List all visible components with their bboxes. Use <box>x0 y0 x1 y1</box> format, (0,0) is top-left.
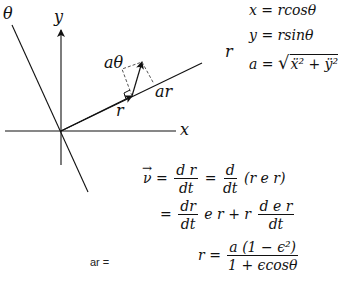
ar-label: ar = <box>90 256 109 268</box>
theta-axis-label: θ <box>3 6 13 22</box>
theta-line <box>12 25 88 192</box>
y-equation: y = rsinθ <box>249 28 313 42</box>
r-vector-label: r <box>116 103 124 119</box>
orbit-equation: r = a (1 − ϵ²)1 + ϵcosθ <box>198 240 300 272</box>
r-line-label: r <box>225 44 233 60</box>
velocity-equation: ν = d rdt = ddt (r e r) <box>143 163 285 195</box>
a-theta-label: aθ <box>104 55 123 71</box>
acceleration-vector <box>132 62 142 96</box>
a-r-label: ar <box>155 84 172 100</box>
velocity-equation-expanded: = drdt e r + r d e rdt <box>160 199 296 231</box>
a-equation: a = √ẍ² + ÿ² <box>249 54 338 72</box>
x-axis-label: x <box>180 122 189 138</box>
x-equation: x = rcosθ <box>249 3 316 17</box>
dashed-components <box>122 62 154 96</box>
y-axis-label: y <box>54 9 63 25</box>
